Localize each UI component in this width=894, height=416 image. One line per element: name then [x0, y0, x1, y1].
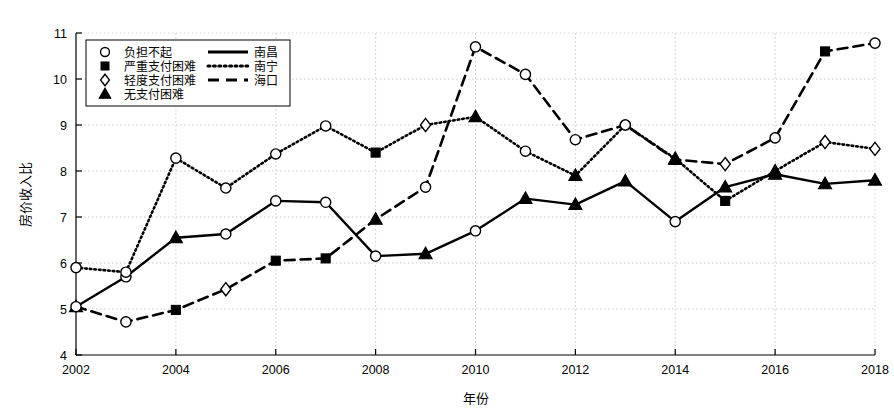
- data-point-marker-circle: [520, 146, 530, 156]
- data-point-marker-triangle: [619, 174, 632, 186]
- x-axis-tick-labels: 200220042006200820102012201420162018: [62, 363, 889, 377]
- data-point-marker-circle: [171, 153, 181, 163]
- x-axis-title: 年份: [463, 391, 489, 406]
- data-point-marker-circle: [470, 42, 480, 52]
- legend-label-triangle: 无支付困难: [124, 88, 184, 102]
- legend-label-square: 严重支付困难: [124, 60, 196, 74]
- data-point-marker-circle: [770, 133, 780, 143]
- data-point-marker-circle: [71, 263, 81, 273]
- data-point-marker-circle: [321, 121, 331, 131]
- data-point-marker-square: [721, 196, 730, 205]
- data-point-marker-diamond: [870, 142, 880, 155]
- legend: 负担不起严重支付困难轻度支付困难无支付困难南昌南宁海口: [86, 40, 290, 106]
- x-tick-label: 2002: [62, 363, 90, 377]
- data-point-marker-square: [271, 256, 280, 265]
- legend-label-diamond: 轻度支付困难: [124, 73, 196, 88]
- data-point-marker-square: [371, 148, 380, 157]
- y-tick-label: 5: [60, 303, 67, 317]
- data-point-marker-diamond: [420, 118, 430, 131]
- data-point-marker-square: [171, 305, 180, 314]
- data-point-marker-circle: [620, 120, 630, 130]
- data-point-marker-circle: [121, 317, 131, 327]
- price-to-income-ratio-line-chart: 4567891011 20022004200620082010201220142…: [0, 0, 894, 416]
- legend-city-label-海口: 海口: [254, 73, 278, 88]
- x-tick-label: 2016: [761, 363, 789, 377]
- data-point-marker-circle: [271, 149, 281, 159]
- data-point-marker-circle: [371, 251, 381, 261]
- data-point-marker-circle: [271, 196, 281, 206]
- data-point-marker-circle: [121, 267, 131, 277]
- data-point-marker-square: [101, 62, 109, 70]
- data-point-marker-circle: [520, 69, 530, 79]
- y-tick-label: 7: [60, 211, 67, 225]
- data-point-marker-circle: [221, 183, 231, 193]
- data-point-marker-circle: [101, 48, 110, 57]
- y-tick-label: 8: [60, 165, 67, 179]
- x-tick-label: 2010: [462, 363, 490, 377]
- data-point-marker-diamond: [221, 283, 231, 296]
- legend-city-label-南昌: 南昌: [254, 45, 278, 60]
- data-point-marker-circle: [321, 197, 331, 207]
- data-point-marker-circle: [870, 38, 880, 48]
- y-tick-label: 9: [60, 119, 67, 133]
- data-point-marker-circle: [670, 217, 680, 227]
- data-point-marker-diamond: [720, 158, 730, 171]
- y-axis-tick-labels: 4567891011: [53, 27, 67, 363]
- y-tick-label: 10: [53, 73, 67, 87]
- x-tick-label: 2008: [362, 363, 390, 377]
- legend-city-label-南宁: 南宁: [254, 59, 278, 74]
- data-point-marker-square: [321, 254, 330, 263]
- x-tick-label: 2018: [861, 363, 889, 377]
- y-tick-label: 11: [54, 27, 67, 41]
- data-point-marker-triangle: [769, 164, 782, 176]
- data-point-marker-circle: [570, 135, 580, 145]
- y-tick-label: 4: [60, 349, 67, 363]
- data-point-marker-circle: [221, 229, 231, 239]
- data-point-marker-diamond: [820, 135, 830, 148]
- data-point-marker-circle: [71, 302, 81, 312]
- data-point-marker-circle: [470, 226, 480, 236]
- x-tick-label: 2006: [262, 363, 290, 377]
- x-tick-label: 2012: [561, 363, 589, 377]
- x-tick-label: 2014: [661, 363, 689, 377]
- legend-label-circle: 负担不起: [124, 46, 172, 60]
- x-tick-label: 2004: [162, 363, 190, 377]
- data-point-marker-triangle: [369, 213, 382, 225]
- data-point-marker-square: [821, 47, 830, 56]
- data-point-marker-triangle: [519, 192, 532, 204]
- data-point-marker-triangle: [868, 173, 881, 185]
- y-tick-label: 6: [60, 257, 67, 271]
- data-point-marker-circle: [420, 182, 430, 192]
- chart-container: 4567891011 20022004200620082010201220142…: [0, 0, 894, 416]
- y-axis-title: 房价收入比: [18, 162, 33, 227]
- data-point-marker-triangle: [469, 110, 482, 122]
